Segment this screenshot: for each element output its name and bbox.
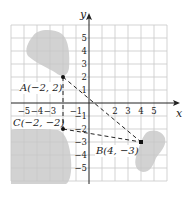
coordinate-plane-figure: x y −5 −4 −3 −1 2 3 4 5 5 4 3 2 1 −1 −2 … bbox=[0, 0, 192, 198]
y-tick-label: −3 bbox=[74, 137, 87, 147]
shaded-region-lower-left bbox=[11, 129, 71, 184]
shaded-region-lower-right bbox=[135, 131, 165, 172]
point-b-marker bbox=[139, 140, 143, 144]
point-a-label: A(−2, 2) bbox=[19, 82, 63, 93]
x-tick-label: −3 bbox=[44, 106, 57, 116]
point-b-label: B(4, −3) bbox=[95, 145, 139, 156]
y-tick-label: 1 bbox=[82, 85, 87, 95]
x-tick-label: 4 bbox=[138, 106, 143, 116]
y-tick-label: 2 bbox=[82, 72, 87, 82]
y-tick-label: 4 bbox=[82, 46, 87, 56]
y-tick-label: 5 bbox=[82, 33, 87, 43]
y-tick-label: −5 bbox=[74, 163, 87, 173]
y-tick-label: −4 bbox=[74, 150, 87, 160]
y-tick-label: 3 bbox=[82, 59, 87, 69]
x-tick-label: 5 bbox=[151, 106, 156, 116]
y-axis-label: y bbox=[79, 8, 87, 21]
x-tick-label: −4 bbox=[31, 106, 44, 116]
point-a-marker bbox=[61, 75, 65, 79]
x-tick-label: −5 bbox=[18, 106, 31, 116]
point-c-label: C(−2, −2) bbox=[13, 117, 64, 128]
x-tick-labels: −5 −4 −3 −1 2 3 4 5 bbox=[18, 106, 157, 116]
x-axis-label: x bbox=[176, 107, 183, 120]
x-tick-label: 3 bbox=[125, 106, 130, 116]
y-tick-label: −1 bbox=[74, 111, 87, 121]
x-tick-label: 2 bbox=[112, 106, 117, 116]
